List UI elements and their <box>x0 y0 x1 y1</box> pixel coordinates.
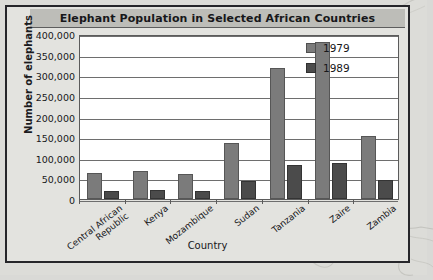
y-axis-tick-labels: 050,000100,000150,000200,000250,000300,0… <box>15 35 75 200</box>
x-axis-tick-label: Kenya <box>142 203 170 228</box>
y-axis-tick-label: 0 <box>69 195 75 206</box>
x-axis-tick-label-line: Tanzania <box>270 203 307 235</box>
x-axis-tick-label: Tanzania <box>270 203 307 235</box>
bar-1979-central-african-republic <box>87 173 102 199</box>
bar-1989-tanzania <box>287 165 302 199</box>
x-axis-tickmark <box>262 200 263 204</box>
x-axis-tickmark <box>79 200 80 204</box>
x-axis-tickmark <box>125 200 126 204</box>
legend-item-1989: 1989 <box>292 58 392 78</box>
bar-1989-kenya <box>150 190 165 199</box>
gridline <box>80 160 398 161</box>
chart-figure: Elephant Population in Selected African … <box>5 5 410 263</box>
x-axis-tickmark <box>308 200 309 204</box>
gridline <box>80 98 398 99</box>
chart-legend: 19791989 <box>292 38 392 78</box>
bar-1989-zambia <box>378 180 393 199</box>
bar-1989-mozambique <box>195 191 210 199</box>
y-axis-tick-label: 200,000 <box>36 112 75 123</box>
x-axis-tickmark <box>170 200 171 204</box>
chart-title: Elephant Population in Selected African … <box>60 12 375 25</box>
legend-swatch-1979 <box>306 43 316 53</box>
y-axis-tick-label: 150,000 <box>36 133 75 144</box>
y-axis-tick-label: 250,000 <box>36 91 75 102</box>
bar-1989-central-african-republic <box>104 191 119 199</box>
x-axis-tick-label: Sudan <box>233 203 262 228</box>
x-axis-tick-label: Zaire <box>328 203 352 225</box>
x-axis-tick-label: Zambia <box>365 203 398 232</box>
y-axis-tick-label: 350,000 <box>36 50 75 61</box>
bar-1979-mozambique <box>178 174 193 199</box>
bar-1989-zaire <box>332 163 347 199</box>
bar-1979-tanzania <box>270 68 285 199</box>
y-axis-tick-label: 400,000 <box>36 30 75 41</box>
legend-label-1979: 1979 <box>323 42 350 54</box>
chart-title-banner: Elephant Population in Selected African … <box>30 9 405 28</box>
legend-swatch-1989 <box>306 63 316 73</box>
bar-1979-zambia <box>361 136 376 199</box>
bar-1979-kenya <box>133 171 148 199</box>
x-axis-tick-label-line: Kenya <box>142 203 170 228</box>
x-axis-tick-label-line: Zaire <box>328 203 352 225</box>
gridline <box>80 180 398 181</box>
x-axis-tickmark <box>216 200 217 204</box>
x-axis-tick-label-line: Sudan <box>233 203 262 228</box>
x-axis-title: Country <box>7 240 408 251</box>
gridline <box>80 36 398 37</box>
y-axis-tick-label: 300,000 <box>36 71 75 82</box>
x-axis-tick-label: Central AfricanRepublic <box>65 203 130 260</box>
gridline <box>80 139 398 140</box>
y-axis-tick-label: 100,000 <box>36 153 75 164</box>
gridline <box>80 119 398 120</box>
x-axis-tickmark <box>353 200 354 204</box>
legend-label-1989: 1989 <box>323 62 350 74</box>
y-axis-tick-label: 50,000 <box>42 174 75 185</box>
bar-1979-sudan <box>224 143 239 199</box>
x-axis-tick-label-line: Zambia <box>365 203 398 232</box>
bar-1989-sudan <box>241 181 256 199</box>
legend-item-1979: 1979 <box>292 38 392 58</box>
